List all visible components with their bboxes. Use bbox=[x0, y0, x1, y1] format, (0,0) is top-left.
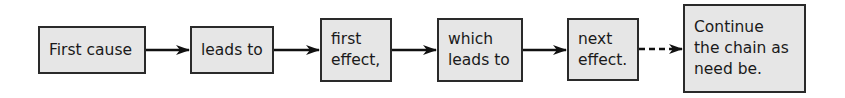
node-label-line2: effect, bbox=[331, 50, 381, 71]
node-first-cause: First cause bbox=[38, 26, 146, 74]
node-first-effect: first effect, bbox=[320, 18, 392, 82]
node-continue-chain: Continue the chain as need be. bbox=[683, 4, 806, 93]
node-label-line1: which bbox=[448, 29, 512, 50]
node-leads-to: leads to bbox=[190, 26, 274, 74]
node-label-line2: effect. bbox=[578, 50, 628, 71]
node-label-line3: need be. bbox=[694, 59, 795, 80]
node-label-line2: the chain as bbox=[694, 38, 795, 59]
node-label-line1: first bbox=[331, 29, 381, 50]
node-label-line2: leads to bbox=[448, 50, 512, 71]
node-label: leads to bbox=[201, 40, 263, 61]
node-next-effect: next effect. bbox=[567, 18, 639, 81]
node-which-leads-to: which leads to bbox=[437, 18, 523, 82]
node-label-line1: Continue bbox=[694, 17, 795, 38]
node-label-line1: next bbox=[578, 29, 628, 50]
node-label: First cause bbox=[49, 40, 135, 61]
